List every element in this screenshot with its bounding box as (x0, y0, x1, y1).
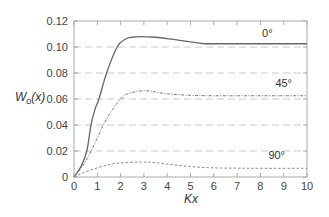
x-tick-labels: 012345678910 (71, 180, 313, 192)
x-tick-label: 6 (211, 180, 217, 192)
y-tick-label: 0.04 (47, 119, 68, 131)
y-tick-label: 0.12 (47, 15, 68, 27)
y-tick-label: 0.08 (47, 67, 68, 79)
y-tick-label: 0.10 (47, 41, 68, 53)
x-tick-label: 0 (71, 180, 77, 192)
x-tick-label: 8 (257, 180, 263, 192)
x-tick-label: 3 (141, 180, 147, 192)
x-axis-label: Kx (184, 192, 199, 206)
curve-label: 90° (268, 149, 285, 161)
x-tick-label: 2 (118, 180, 124, 192)
y-tick-labels: 00.020.040.060.080.100.12 (47, 15, 68, 183)
y-tick-label: 0 (62, 171, 68, 183)
ylabel-argument: (x) (31, 90, 45, 104)
curve-label: 0° (262, 27, 273, 39)
x-tick-label: 1 (94, 180, 100, 192)
x-tick-label: 9 (281, 180, 287, 192)
grid-lines (74, 47, 307, 151)
curve-label: 45° (275, 77, 292, 89)
curve-1 (74, 91, 307, 177)
y-tick-label: 0.06 (47, 93, 68, 105)
x-tick-label: 5 (187, 180, 193, 192)
x-tick-label: 4 (164, 180, 170, 192)
y-tick-label: 0.02 (47, 145, 68, 157)
x-tick-label: 7 (234, 180, 240, 192)
y-axis-label: Wo(x) (15, 90, 45, 106)
line-chart: 012345678910 00.020.040.060.080.100.12 0… (0, 0, 329, 217)
x-tick-label: 10 (301, 180, 313, 192)
